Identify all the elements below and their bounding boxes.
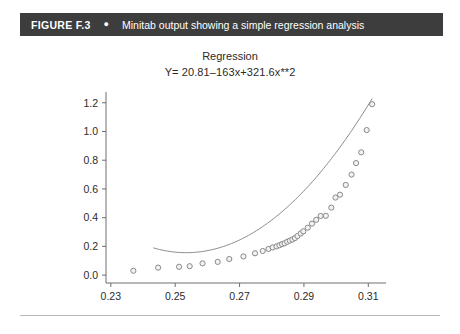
y-tick-label: 0.0 — [83, 269, 98, 281]
y-tick-label: 0.2 — [83, 240, 98, 252]
data-point — [187, 264, 192, 269]
y-tick-label: 0.6 — [83, 183, 98, 195]
y-tick-label: 0.4 — [83, 211, 98, 223]
figure-caption-text: Minitab output showing a simple regressi… — [122, 19, 364, 31]
y-tick-label: 0.8 — [83, 154, 98, 166]
x-tick-label: 0.23 — [101, 290, 122, 302]
data-point — [241, 254, 246, 259]
data-point — [200, 261, 205, 266]
data-point — [343, 182, 348, 187]
y-tick-label: 1.2 — [83, 97, 98, 109]
data-point — [349, 172, 354, 177]
data-point — [252, 251, 257, 256]
data-point — [215, 259, 220, 264]
data-point — [314, 217, 319, 222]
data-point — [353, 160, 358, 165]
x-axis-ticks — [111, 283, 368, 287]
y-axis-ticks — [102, 103, 106, 275]
x-tick-label: 0.29 — [294, 290, 315, 302]
data-point — [309, 221, 314, 226]
data-point — [305, 225, 310, 230]
data-point — [156, 265, 161, 270]
data-point — [329, 205, 334, 210]
scatter-plot: 0.00.20.40.60.81.01.2 0.230.250.270.290.… — [0, 40, 460, 320]
data-point — [337, 192, 342, 197]
x-axis-tick-labels: 0.230.250.270.290.31 — [101, 290, 379, 302]
data-point — [364, 127, 369, 132]
x-tick-label: 0.25 — [165, 290, 186, 302]
chart-region: Regression Y= 20.81–163x+321.6x**2 0.00.… — [0, 40, 460, 320]
data-point — [131, 268, 136, 273]
data-point — [359, 150, 364, 155]
bullet-dot-icon: ● — [104, 20, 109, 29]
data-point — [176, 264, 181, 269]
x-tick-label: 0.31 — [358, 290, 379, 302]
regression-fit-curve — [153, 98, 372, 252]
data-point — [318, 213, 323, 218]
figure-number-label: FIGURE F.3 — [31, 19, 91, 31]
data-point — [260, 248, 265, 253]
y-tick-label: 1.0 — [83, 125, 98, 137]
data-point — [323, 213, 328, 218]
data-point-markers — [131, 102, 375, 274]
data-point — [301, 229, 306, 234]
x-tick-label: 0.27 — [229, 290, 250, 302]
data-point — [227, 256, 232, 261]
figure-caption-bar: FIGURE F.3 ● Minitab output showing a si… — [20, 13, 443, 36]
y-axis-tick-labels: 0.00.20.40.60.81.01.2 — [83, 97, 98, 281]
data-point — [370, 102, 375, 107]
footer-divider — [20, 315, 440, 316]
